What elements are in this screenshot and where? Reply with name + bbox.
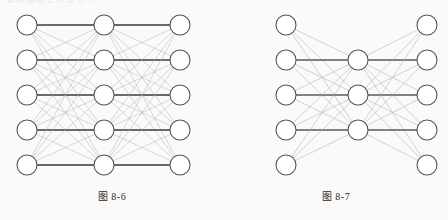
edge-diagonal: [367, 135, 418, 161]
edge-diagonal: [367, 30, 418, 56]
network-node: [17, 85, 37, 105]
neural-network-diagram-left: [0, 0, 224, 185]
network-node: [94, 15, 114, 35]
edge-diagonal: [292, 68, 353, 157]
network-node: [276, 120, 296, 140]
network-node: [17, 50, 37, 70]
network-node: [417, 85, 437, 105]
network-node: [417, 120, 437, 140]
figure-8-7: 图 8-7: [224, 0, 448, 220]
network-node: [276, 50, 296, 70]
network-node: [170, 15, 190, 35]
network-node: [348, 120, 368, 140]
network-node: [17, 120, 37, 140]
network-node: [417, 50, 437, 70]
network-node: [348, 85, 368, 105]
network-node: [276, 85, 296, 105]
figure-8-6: 图 8-6: [0, 0, 224, 220]
edge-diagonal: [295, 134, 349, 160]
network-node: [17, 15, 37, 35]
network-node: [170, 155, 190, 175]
network-node: [17, 155, 37, 175]
network-node: [348, 50, 368, 70]
edge-diagonal: [295, 29, 349, 55]
network-node: [417, 15, 437, 35]
network-node: [94, 155, 114, 175]
figure-page: 神经网络与深度学习 图 8-6 图 8-7: [0, 0, 448, 220]
figure-caption-8-7: 图 8-7: [224, 188, 448, 203]
network-node: [276, 155, 296, 175]
network-node: [417, 155, 437, 175]
neural-network-diagram-right: [224, 0, 448, 185]
network-node: [276, 15, 296, 35]
network-node: [170, 120, 190, 140]
figure-caption-8-6: 图 8-6: [0, 188, 224, 203]
edge-diagonal: [363, 33, 421, 121]
network-node: [94, 120, 114, 140]
network-node: [170, 50, 190, 70]
network-node: [94, 85, 114, 105]
network-node: [94, 50, 114, 70]
network-node: [170, 85, 190, 105]
